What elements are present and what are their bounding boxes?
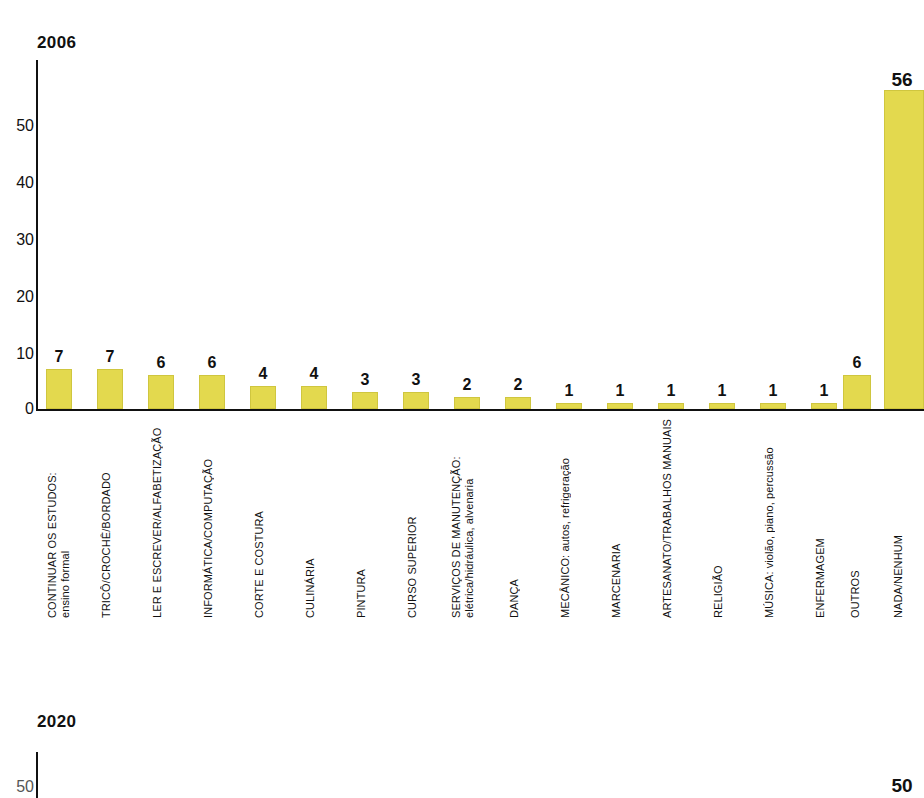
bar-value-nada-nenhum: 56 <box>880 69 924 91</box>
bar-value-mecanico: 1 <box>556 382 582 400</box>
cat-label-trico-croche-bordado: TRICÔ/CROCHÊ/BORDADO <box>100 418 113 618</box>
cat-label-musica: MÚSICA: violão, piano, percussão <box>763 418 776 618</box>
bar-culinaria <box>301 386 327 409</box>
bar-musica <box>760 403 786 409</box>
bar-value-corte-e-costura: 4 <box>250 365 276 383</box>
cat-label-continuar-os-estudos: CONTINUAR OS ESTUDOS: ensino formal <box>46 418 72 618</box>
cat-label-mecanico: MECÂNICO: autos, refrigeração <box>559 418 572 618</box>
cat-label-line1: DANÇA <box>508 418 521 618</box>
bar-value-2020-partial: 50 <box>880 775 924 797</box>
cat-label-line1: MECÂNICO: autos, refrigeração <box>559 418 572 618</box>
cat-label-pintura: PINTURA <box>355 418 368 618</box>
bar-trico-croche-bordado <box>97 369 123 409</box>
y-tick-label-30: 30 <box>0 231 34 249</box>
cat-label-line1: RELIGIÃO <box>712 418 725 618</box>
bar-ler-e-escrever <box>148 375 174 409</box>
bar-value-curso-superior: 3 <box>403 371 429 389</box>
chart-title-2020: 2020 <box>37 712 76 732</box>
bar-religiao <box>709 403 735 409</box>
cat-label-marcenaria: MARCENARIA <box>610 418 623 618</box>
bar-mecanico <box>556 403 582 409</box>
bar-curso-superior <box>403 392 429 409</box>
cat-label-line1: NADA/NENHUM <box>892 418 905 618</box>
cat-label-line1: PINTURA <box>355 418 368 618</box>
bar-value-culinaria: 4 <box>301 365 327 383</box>
cat-label-line2: elétrica/hidráulica, alvenaria <box>463 418 476 618</box>
bar-corte-e-costura <box>250 386 276 409</box>
cat-label-line2: ensino formal <box>59 418 72 618</box>
bar-value-ler-e-escrever: 6 <box>148 354 174 372</box>
cat-label-line1: CURSO SUPERIOR <box>406 418 419 618</box>
bar-value-outros: 6 <box>843 354 871 372</box>
y-tick-label-10: 10 <box>0 345 34 363</box>
bar-servicos-de-manutencao <box>454 397 480 409</box>
cat-label-line1: ARTESANATO/TRABALHOS MANUAIS <box>661 418 674 618</box>
cat-label-artesanato: ARTESANATO/TRABALHOS MANUAIS <box>661 418 674 618</box>
cat-label-line1: LER E ESCREVER/ALFABETIZAÇÃO <box>151 418 164 618</box>
bar-artesanato <box>658 403 684 409</box>
cat-label-line1: CONTINUAR OS ESTUDOS: <box>46 418 59 618</box>
cat-label-line1: INFORMÁTICA/COMPUTAÇÃO <box>202 418 215 618</box>
bar-marcenaria <box>607 403 633 409</box>
cat-label-servicos-de-manutencao: SERVIÇOS DE MANUTENÇÃO: elétrica/hidrául… <box>450 418 476 618</box>
chart-title-2006: 2006 <box>37 33 76 53</box>
bar-continuar-os-estudos <box>46 369 72 409</box>
cat-label-religiao: RELIGIÃO <box>712 418 725 618</box>
y-tick-label-2020-50: 50 <box>0 778 34 796</box>
cat-label-line1: OUTROS <box>849 418 862 618</box>
bar-value-danca: 2 <box>505 376 531 394</box>
cat-label-line1: CORTE E COSTURA <box>253 418 266 618</box>
bar-outros <box>843 375 871 409</box>
bar-pintura <box>352 392 378 409</box>
cat-label-nada-nenhum: NADA/NENHUM <box>892 418 905 618</box>
bar-value-marcenaria: 1 <box>607 382 633 400</box>
cat-label-line1: MÚSICA: violão, piano, percussão <box>763 418 776 618</box>
y-tick-label-40: 40 <box>0 174 34 192</box>
cat-label-outros: OUTROS <box>849 418 862 618</box>
bar-value-pintura: 3 <box>352 371 378 389</box>
y-tick-label-0: 0 <box>0 400 34 418</box>
bar-value-servicos-de-manutencao: 2 <box>454 376 480 394</box>
cat-label-line1: CULINÁRIA <box>304 418 317 618</box>
cat-label-line1: MARCENARIA <box>610 418 623 618</box>
bar-enfermagem <box>811 403 837 409</box>
bar-danca <box>505 397 531 409</box>
cat-label-line1: ENFERMAGEM <box>814 418 827 618</box>
y-axis-2006 <box>36 60 38 410</box>
cat-label-enfermagem: ENFERMAGEM <box>814 418 827 618</box>
cat-label-curso-superior: CURSO SUPERIOR <box>406 418 419 618</box>
bar-value-informatica: 6 <box>199 354 225 372</box>
cat-label-informatica: INFORMÁTICA/COMPUTAÇÃO <box>202 418 215 618</box>
cat-label-culinaria: CULINÁRIA <box>304 418 317 618</box>
y-axis-2020 <box>36 752 38 798</box>
bar-value-enfermagem: 1 <box>811 382 837 400</box>
bar-informatica <box>199 375 225 409</box>
cat-label-ler-e-escrever: LER E ESCREVER/ALFABETIZAÇÃO <box>151 418 164 618</box>
x-axis-2006 <box>36 409 924 411</box>
bar-value-musica: 1 <box>760 382 786 400</box>
cat-label-danca: DANÇA <box>508 418 521 618</box>
bar-nada-nenhum <box>884 90 924 409</box>
bar-value-continuar-os-estudos: 7 <box>46 348 72 366</box>
bar-value-religiao: 1 <box>709 382 735 400</box>
cat-label-line1: SERVIÇOS DE MANUTENÇÃO: <box>450 418 463 618</box>
bar-value-artesanato: 1 <box>658 382 684 400</box>
bar-value-trico-croche-bordado: 7 <box>97 348 123 366</box>
cat-label-line1: TRICÔ/CROCHÊ/BORDADO <box>100 418 113 618</box>
cat-label-corte-e-costura: CORTE E COSTURA <box>253 418 266 618</box>
y-tick-label-20: 20 <box>0 288 34 306</box>
y-tick-label-50: 50 <box>0 117 34 135</box>
